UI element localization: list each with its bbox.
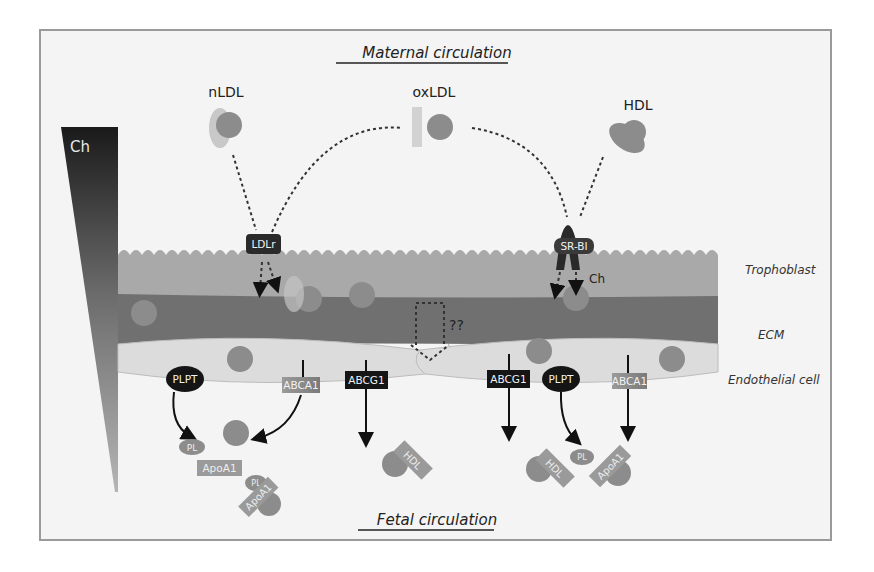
svg-text:PL: PL	[187, 443, 197, 453]
svg-text:PLPT: PLPT	[173, 373, 199, 385]
hdl-particle-maternal: HDL	[604, 97, 653, 159]
svg-text:ABCA1: ABCA1	[612, 375, 647, 387]
nldl-particle: nLDL	[208, 84, 243, 148]
abcg1-left: ABCG1	[345, 360, 388, 440]
oxldl-label: oxLDL	[413, 84, 456, 100]
nldl-label: nLDL	[208, 84, 243, 100]
svg-text:ABCG1: ABCG1	[490, 373, 526, 385]
trophoblast-layer	[118, 250, 718, 300]
fetal-circulation-title: Fetal circulation	[358, 511, 497, 530]
oxldl-particle: oxLDL	[412, 84, 456, 147]
svg-text:PL: PL	[577, 453, 587, 462]
cholesterol-gradient-wedge: Ch	[61, 127, 118, 492]
svg-text:ApoA1: ApoA1	[202, 462, 236, 474]
svg-text:ABCG1: ABCG1	[348, 374, 384, 386]
ldlr-label: LDLr	[251, 238, 276, 250]
trophoblast-label: Trophoblast	[745, 263, 817, 277]
maternal-circulation-label: Maternal circulation	[362, 44, 511, 62]
fetal-circulation-label: Fetal circulation	[377, 511, 497, 529]
ldlr-receptor: LDLr	[246, 234, 281, 254]
endothelial-label: Endothelial cell	[728, 373, 820, 387]
maternal-circulation-title: Maternal circulation	[336, 44, 512, 63]
srbi-label: SR-BI	[560, 240, 587, 252]
fetal-hdl-left: HDL	[382, 440, 433, 480]
gradient-label: Ch	[70, 138, 90, 156]
svg-text:ABCA1: ABCA1	[283, 379, 318, 391]
srbi-cholesterol-label: Ch	[589, 272, 605, 286]
hdl-label: HDL	[623, 97, 652, 113]
plpt-left: PLPT	[166, 366, 204, 392]
fetal-products-right: HDL PL ApoA1	[526, 445, 631, 488]
unknown-transport-label: ??	[449, 317, 464, 333]
svg-text:PLPT: PLPT	[549, 373, 575, 385]
ecm-label: ECM	[758, 328, 785, 342]
plpt-right: PLPT	[542, 366, 580, 392]
placental-cholesterol-transport-diagram: Maternal circulation Fetal circulation C…	[0, 0, 874, 572]
